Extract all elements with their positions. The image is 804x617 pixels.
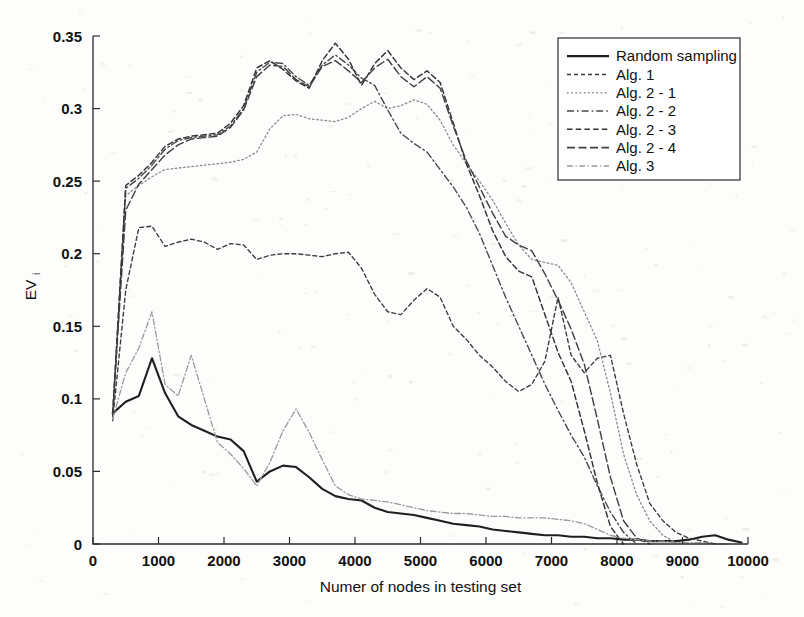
scan-speck [550, 296, 553, 298]
scan-speck [96, 260, 99, 263]
scan-speck [78, 10, 81, 12]
scan-speck [370, 291, 373, 293]
scan-speck [388, 375, 392, 378]
scan-speck [529, 31, 535, 34]
scan-speck [43, 99, 45, 101]
scan-speck [560, 401, 564, 403]
scan-speck [469, 133, 470, 135]
x-tick-label: 7000 [535, 552, 568, 569]
scan-speck [428, 32, 432, 34]
y-axis-title-group: EVi [22, 273, 42, 301]
scan-speck [582, 540, 584, 541]
scan-speck [664, 434, 668, 435]
scan-speck [202, 471, 206, 473]
scan-speck [133, 410, 135, 413]
scan-speck [778, 432, 782, 435]
scan-speck [285, 231, 287, 232]
scan-speck [240, 55, 242, 58]
scan-speck [708, 344, 711, 347]
scan-speck [305, 18, 308, 19]
scan-speck [274, 463, 275, 466]
scan-speck [355, 398, 358, 401]
scan-speck [21, 454, 25, 456]
scan-speck [303, 293, 306, 295]
chart-svg: 00.050.10.150.20.250.30.3501000200030004… [0, 0, 804, 617]
scan-speck [140, 434, 144, 437]
legend-label: Alg. 2 - 2 [616, 102, 676, 119]
scan-speck [722, 360, 727, 362]
scan-speck [408, 272, 415, 275]
scan-speck [84, 192, 88, 195]
scan-speck [521, 185, 527, 188]
scan-speck [516, 199, 522, 202]
scan-speck [514, 443, 518, 445]
scan-speck [762, 593, 765, 594]
scan-speck [708, 326, 714, 327]
y-tick-label: 0.25 [53, 173, 82, 190]
scan-speck [743, 528, 749, 531]
scan-speck [783, 16, 785, 19]
scan-speck [347, 194, 352, 195]
x-tick-label: 0 [89, 552, 97, 569]
scan-speck [75, 350, 78, 352]
scan-speck [100, 65, 106, 68]
scan-speck [32, 530, 36, 531]
scan-speck [562, 239, 568, 242]
scan-speck [39, 580, 43, 582]
scan-speck [125, 289, 131, 291]
scan-speck [617, 290, 623, 292]
scan-speck [450, 536, 455, 537]
scan-speck [303, 601, 310, 602]
scan-speck [773, 558, 780, 561]
scan-speck [749, 22, 752, 24]
scan-speck [285, 154, 287, 157]
scan-speck [574, 603, 579, 605]
scan-speck [186, 76, 193, 78]
scan-speck [725, 518, 729, 519]
scan-speck [392, 233, 399, 235]
scan-speck [521, 553, 525, 555]
scan-speck [728, 296, 734, 299]
scan-speck [692, 600, 694, 603]
scan-speck [388, 449, 394, 451]
scan-speck [504, 200, 505, 201]
scan-speck [673, 388, 675, 389]
scan-speck [327, 125, 333, 128]
scan-speck [64, 265, 67, 268]
scan-speck [656, 476, 660, 477]
scan-speck [523, 588, 526, 590]
scan-speck [470, 74, 474, 77]
scan-speck [83, 89, 86, 90]
scan-speck [256, 274, 258, 275]
scan-speck [298, 347, 301, 350]
scan-speck [209, 474, 216, 476]
y-tick-label: 0.05 [53, 463, 82, 480]
scan-speck [785, 333, 789, 335]
legend-label: Random sampling [616, 47, 737, 64]
scan-speck [621, 338, 627, 341]
scan-speck [782, 273, 786, 275]
scan-speck [253, 219, 259, 221]
series-line-6 [113, 312, 729, 544]
scan-speck [310, 33, 312, 35]
scan-speck [762, 315, 767, 318]
scan-speck [478, 452, 482, 455]
scan-speck [436, 93, 440, 95]
scan-speck [101, 231, 105, 233]
scan-speck [409, 381, 413, 384]
scan-speck [367, 164, 371, 167]
scan-speck [558, 32, 565, 33]
scan-speck [546, 82, 547, 84]
scan-speck [526, 167, 533, 169]
scan-speck [241, 578, 245, 580]
scan-speck [366, 369, 368, 371]
scan-speck [110, 152, 117, 154]
chart-legend[interactable]: Random samplingAlg. 1Alg. 2 - 1Alg. 2 - … [558, 38, 740, 180]
scan-speck [509, 315, 516, 317]
scan-speck [760, 382, 763, 384]
scan-speck [453, 234, 457, 237]
scan-speck [103, 593, 109, 595]
scan-speck [478, 312, 480, 314]
scan-speck [322, 451, 324, 454]
scan-speck [128, 296, 134, 299]
